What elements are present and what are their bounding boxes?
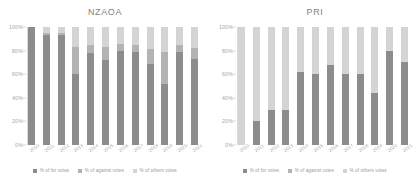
bar-segment[interactable] [312, 74, 319, 145]
x-axis-tick-label: 2014 [88, 145, 101, 159]
bar-segment[interactable] [371, 27, 378, 93]
y-axis-labels-nzaoa: 100%80%60%40%20%0% [0, 27, 26, 145]
y-axis-tick-mark [23, 121, 26, 122]
bar-segment[interactable] [297, 27, 304, 72]
bar-segment[interactable] [72, 27, 79, 47]
legend-item[interactable]: % of for votes [33, 168, 69, 173]
bar-segment[interactable] [342, 74, 349, 145]
bar-segment[interactable] [161, 84, 168, 145]
bar-segment[interactable] [342, 27, 349, 74]
legend-item[interactable]: % of against votes [288, 168, 334, 173]
bar-segment[interactable] [176, 45, 183, 52]
bar-segment[interactable] [87, 53, 94, 145]
bar-segment[interactable] [401, 62, 408, 145]
legend-label: % of for votes [40, 168, 70, 173]
bar-group-nzaoa [28, 27, 198, 145]
bar-segment[interactable] [297, 72, 304, 145]
bar-segment[interactable] [268, 110, 275, 145]
stacked-bar[interactable] [386, 27, 393, 145]
bar-segment[interactable] [132, 27, 139, 45]
stacked-bar[interactable] [312, 27, 319, 145]
bar-segment[interactable] [176, 52, 183, 145]
bar-segment[interactable] [357, 74, 364, 145]
stacked-bar[interactable] [161, 27, 168, 145]
x-axis-tick-label: 2020 [177, 145, 190, 159]
bar-segment[interactable] [102, 47, 109, 60]
legend-item[interactable]: % of against votes [78, 168, 124, 173]
stacked-bar[interactable] [147, 27, 154, 145]
y-axis-tick-label: 60% [12, 71, 23, 77]
stacked-bar[interactable] [72, 27, 79, 145]
bar-segment[interactable] [161, 52, 168, 84]
bar-segment[interactable] [312, 27, 319, 74]
stacked-bar[interactable] [58, 27, 65, 145]
bar-segment[interactable] [386, 51, 393, 145]
legend-item[interactable]: % of for votes [243, 168, 279, 173]
legend-item[interactable]: % of others votes [343, 168, 387, 173]
stacked-bar[interactable] [297, 27, 304, 145]
bar-segment[interactable] [147, 49, 154, 63]
bar-segment[interactable] [191, 48, 198, 59]
x-axis-tick-label: 2010 [239, 145, 252, 159]
stacked-bar[interactable] [342, 27, 349, 145]
bar-segment[interactable] [327, 65, 334, 145]
stacked-bar[interactable] [87, 27, 94, 145]
bar-segment[interactable] [386, 27, 393, 51]
bar-segment[interactable] [102, 60, 109, 145]
stacked-bar[interactable] [327, 27, 334, 145]
bar-segment[interactable] [117, 44, 124, 51]
stacked-bar[interactable] [176, 27, 183, 145]
stacked-bar[interactable] [401, 27, 408, 145]
bar-segment[interactable] [176, 27, 183, 45]
stacked-bar[interactable] [102, 27, 109, 145]
bar-segment[interactable] [117, 27, 124, 44]
bar-segment[interactable] [58, 35, 65, 145]
bar-segment[interactable] [268, 27, 275, 110]
bar-segment[interactable] [132, 52, 139, 145]
y-axis-tick-mark [233, 74, 236, 75]
bar-segment[interactable] [282, 110, 289, 145]
y-axis-tick-label: 80% [222, 48, 233, 54]
stacked-bar[interactable] [43, 27, 50, 145]
bar-segment[interactable] [191, 27, 198, 48]
bar-segment[interactable] [102, 27, 109, 47]
x-axis-tick-label: 2018 [147, 145, 160, 159]
stacked-bar[interactable] [28, 27, 35, 145]
stacked-bar[interactable] [357, 27, 364, 145]
bar-segment[interactable] [132, 45, 139, 52]
bar-segment[interactable] [327, 27, 334, 65]
x-axis-tick-label: 2015 [103, 145, 116, 159]
stacked-bar[interactable] [371, 27, 378, 145]
x-axis-tick-label: 2021 [402, 145, 415, 159]
bar-segment[interactable] [371, 93, 378, 145]
bar-segment[interactable] [72, 47, 79, 74]
stacked-bar[interactable] [238, 27, 245, 145]
bar-segment[interactable] [191, 59, 198, 145]
chart-panel-pri: PRI 100%80%60%40%20%0% 20102011201220132… [210, 0, 420, 190]
bar-segment[interactable] [43, 35, 50, 145]
bar-segment[interactable] [87, 45, 94, 53]
x-axis-tick-label: 2013 [283, 145, 296, 159]
bar-segment[interactable] [117, 51, 124, 145]
bar-segment[interactable] [282, 27, 289, 110]
bar-segment[interactable] [28, 27, 35, 145]
stacked-bar[interactable] [191, 27, 198, 145]
bar-segment[interactable] [72, 74, 79, 145]
y-axis-tick-label: 40% [12, 95, 23, 101]
bar-segment[interactable] [253, 121, 260, 145]
stacked-bar[interactable] [117, 27, 124, 145]
bar-segment[interactable] [147, 64, 154, 145]
bar-group-pri [238, 27, 408, 145]
bar-segment[interactable] [253, 27, 260, 121]
bar-segment[interactable] [87, 27, 94, 45]
stacked-bar[interactable] [253, 27, 260, 145]
legend-item[interactable]: % of others votes [133, 168, 177, 173]
bar-segment[interactable] [401, 27, 408, 62]
stacked-bar[interactable] [282, 27, 289, 145]
bar-segment[interactable] [357, 27, 364, 74]
bar-segment[interactable] [238, 27, 245, 145]
bar-segment[interactable] [147, 27, 154, 49]
stacked-bar[interactable] [132, 27, 139, 145]
bar-segment[interactable] [161, 27, 168, 52]
stacked-bar[interactable] [268, 27, 275, 145]
